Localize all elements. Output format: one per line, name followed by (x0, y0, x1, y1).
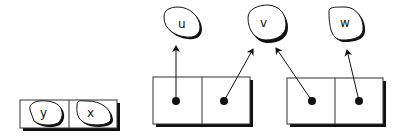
node-v-label: v (260, 16, 267, 30)
node-u-label: u (178, 17, 186, 31)
node-u: u (164, 7, 202, 39)
right-pointer-box (276, 48, 386, 127)
pointer-diagram: y x u v (0, 0, 405, 138)
node-v: v (248, 5, 288, 43)
node-w: w (329, 7, 365, 42)
node-y-label: y (40, 106, 47, 120)
node-w-label: w (340, 16, 350, 30)
left-record-box: y x (20, 100, 120, 131)
node-x-label: x (87, 106, 94, 120)
middle-pointer-box (153, 46, 253, 127)
